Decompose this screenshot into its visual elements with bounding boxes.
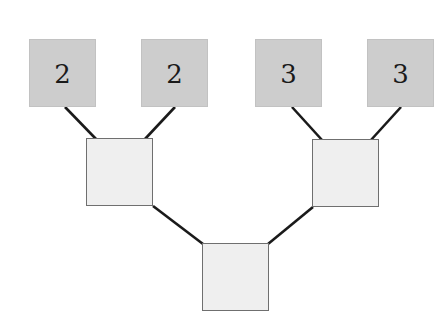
inner-node-right [312, 139, 379, 207]
leaf-node-label: 2 [54, 61, 71, 87]
leaf-node-1: 2 [29, 39, 96, 107]
leaf-node-4: 3 [367, 39, 434, 107]
leaf-node-2: 2 [141, 39, 208, 107]
edge-leaf2-innerleft [145, 107, 175, 139]
leaf-node-label: 3 [392, 61, 409, 87]
leaf-node-label: 3 [280, 61, 297, 87]
edge-innerright-root [268, 207, 313, 244]
edge-leaf3-innerright [292, 107, 322, 140]
edge-innerleft-root [153, 206, 203, 244]
edge-leaf4-innerright [371, 107, 401, 140]
leaf-node-label: 2 [166, 61, 183, 87]
root-node [202, 243, 269, 311]
inner-node-left [86, 138, 153, 206]
edge-leaf1-innerleft [65, 107, 96, 139]
leaf-node-3: 3 [255, 39, 322, 107]
